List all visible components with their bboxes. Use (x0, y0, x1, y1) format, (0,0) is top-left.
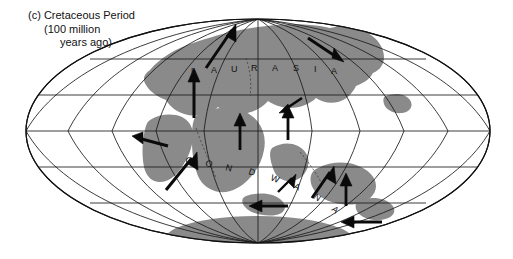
laurasia-letter-6: I (314, 64, 317, 74)
laurasia-letter-3: R (251, 63, 258, 73)
laurasia-letter-7: A (331, 66, 337, 76)
laurasia-letter-0: L (191, 66, 196, 76)
laurasia-letter-5: S (293, 63, 299, 73)
caption-line-1: (c) Cretaceous Period (28, 9, 135, 21)
cretaceous-paleogeography-figure: L A U R A S I A G O N D W A N A (0, 0, 513, 259)
laurasia-letter-4: A (272, 63, 278, 73)
laurasia-letter-1: A (211, 65, 217, 75)
laurasia-letter-2: U (231, 64, 238, 74)
caption-line-3: years ago) (60, 36, 112, 48)
caption-line-2: (100 million (44, 23, 100, 35)
